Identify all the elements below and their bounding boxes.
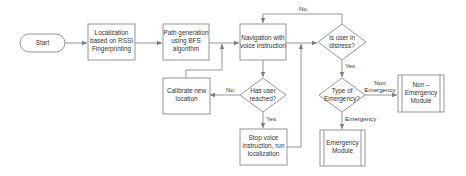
navigation-line-1: Navigation with <box>241 34 285 42</box>
node-is-distress: Is user in distress? <box>318 24 366 60</box>
path-generation-line-3: algorithm <box>173 45 199 53</box>
non-emergency-line-1: Non – <box>412 81 429 88</box>
localization-line-3: Fingerprinting <box>92 45 132 53</box>
emergency-module-line-2: Module <box>332 147 353 154</box>
non-emergency-line-3: Module <box>411 97 432 104</box>
type-emergency-line-1: Type of <box>332 87 353 95</box>
edge-distress-no-to-navigation <box>263 14 342 24</box>
distress-line-1: Is user in <box>329 34 355 41</box>
node-navigation: Navigation with voice instruction <box>240 24 286 60</box>
stop-voice-line-1: Stop voice <box>249 134 279 142</box>
label-distress-yes: Yes <box>345 62 355 69</box>
start-label: Start <box>36 39 50 46</box>
non-emergency-line-2: Emergency <box>405 89 438 97</box>
emergency-module-line-1: Emergency <box>326 139 359 147</box>
node-emergency-module: Emergency Module <box>320 130 365 166</box>
label-non-emergency-1: Non <box>374 79 386 86</box>
distress-line-2: distress? <box>329 42 355 49</box>
edge-stop-voice-to-distress <box>287 44 301 147</box>
calibrate-line-2: location <box>175 95 197 102</box>
has-reached-line-1: Has user <box>250 87 276 94</box>
label-non-emergency-2: Emergency <box>364 86 396 93</box>
node-stop-voice: Stop voice instruction, run localization <box>240 129 287 165</box>
stop-voice-line-3: localization <box>248 150 280 157</box>
label-reached-yes: Yes <box>266 115 276 122</box>
node-localization: Localization based on RSSI Fingerprintin… <box>88 24 135 60</box>
edge-labels: No Yes No Yes Non Emergency Emergency <box>226 5 397 122</box>
label-reached-no: No <box>226 86 234 93</box>
node-path-generation: Path generation using BFS algorithm <box>163 24 209 60</box>
label-emergency: Emergency <box>345 115 377 122</box>
path-generation-line-2: using BFS <box>171 37 200 45</box>
flowchart-canvas: No Yes No Yes Non Emergency Emergency St… <box>0 0 466 176</box>
node-non-emergency-module: Non – Emergency Module <box>398 75 444 112</box>
calibrate-line-1: Calibrate new <box>167 87 206 94</box>
localization-line-2: based on RSSI <box>90 37 133 44</box>
localization-line-1: Localization <box>95 29 129 36</box>
has-reached-line-2: reached? <box>250 95 277 102</box>
node-calibrate: Calibrate new location <box>163 78 210 114</box>
path-generation-line-1: Path generation <box>163 29 209 37</box>
label-distress-no: No <box>299 5 307 12</box>
stop-voice-line-2: instruction, run <box>243 142 285 149</box>
node-has-reached: Has user reached? <box>240 78 286 112</box>
node-start: Start <box>20 34 65 52</box>
navigation-line-2: voice instruction <box>240 42 286 49</box>
node-type-emergency: Type of Emergency? <box>319 78 365 112</box>
type-emergency-line-2: Emergency? <box>324 95 360 103</box>
